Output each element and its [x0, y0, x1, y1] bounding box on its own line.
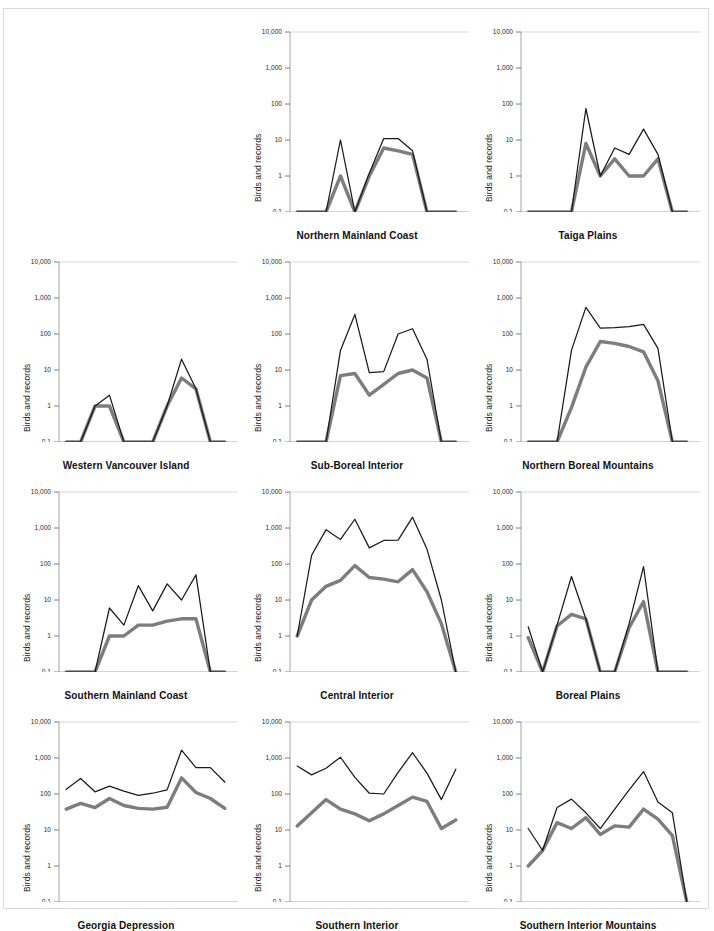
y-axis-label: Birds and records [253, 364, 263, 432]
panel-title: Southern Interior Mountains [476, 920, 700, 931]
y-tick-label: 100 [502, 100, 513, 107]
series-line-records [297, 517, 456, 672]
panel-title: Southern Interior [245, 920, 469, 931]
y-tick-label: 0.1 [273, 438, 282, 442]
y-tick-label: 100 [502, 330, 513, 337]
y-tick-label: 100 [502, 560, 513, 567]
panel-title: Northern Mainland Coast [245, 230, 469, 241]
series-line-records [528, 307, 687, 442]
series-line-birds [66, 619, 225, 672]
series-line-records [297, 139, 456, 212]
y-tick-label: 10 [506, 136, 514, 143]
y-tick-label: 10,000 [31, 718, 52, 725]
series-line-records [528, 567, 687, 672]
panel-title: Northern Boreal Mountains [476, 460, 700, 471]
y-tick-label: 10,000 [31, 258, 52, 265]
panel-title: Central Interior [245, 690, 469, 701]
chart-panel: 10,0001,0001001010.1JFMAMJJASONDBirds an… [14, 712, 238, 920]
series-line-birds [297, 566, 456, 672]
plot-area: 10,0001,0001001010.1JFMAMJJASOND [245, 22, 469, 212]
y-tick-label: 1 [278, 632, 282, 639]
plot-area: 10,0001,0001001010.1JFMAMJJASOND [245, 712, 469, 902]
y-tick-label: 10,000 [493, 718, 514, 725]
y-tick-label: 0.1 [504, 898, 513, 902]
series-line-records [66, 575, 225, 672]
y-tick-label: 100 [40, 330, 51, 337]
y-tick-label: 1 [278, 172, 282, 179]
plot-area: 10,0001,0001001010.1JFMAMJJASOND [476, 22, 700, 212]
panel-title: Sub-Boreal Interior [245, 460, 469, 471]
y-tick-label: 1,000 [496, 524, 513, 531]
y-tick-label: 10,000 [493, 258, 514, 265]
y-tick-label: 100 [271, 560, 282, 567]
y-axis-label: Birds and records [22, 364, 32, 432]
y-tick-label: 1 [509, 172, 513, 179]
plot-area: 10,0001,0001001010.1JFMAMJJASOND [476, 482, 700, 672]
series-line-records [297, 753, 456, 800]
y-tick-label: 10,000 [262, 28, 283, 35]
y-tick-label: 10,000 [262, 718, 283, 725]
y-tick-label: 1,000 [265, 524, 282, 531]
y-tick-label: 10,000 [493, 488, 514, 495]
plot-area: 10,0001,0001001010.1JFMAMJJASOND [14, 252, 238, 442]
y-tick-label: 10 [275, 596, 283, 603]
plot-area: 10,0001,0001001010.1JFMAMJJASOND [476, 252, 700, 442]
y-tick-label: 10 [44, 826, 52, 833]
y-tick-label: 10,000 [493, 28, 514, 35]
y-tick-label: 1,000 [34, 524, 51, 531]
y-tick-label: 1,000 [496, 754, 513, 761]
series-line-birds [528, 341, 687, 442]
series-line-birds [297, 148, 456, 212]
series-line-records [528, 109, 687, 213]
y-axis-label: Birds and records [484, 594, 494, 662]
y-tick-label: 0.1 [273, 668, 282, 672]
panel-title: Taiga Plains [476, 230, 700, 241]
y-tick-label: 100 [271, 790, 282, 797]
y-axis-label: Birds and records [253, 824, 263, 892]
y-tick-label: 1,000 [265, 754, 282, 761]
y-tick-label: 1,000 [265, 294, 282, 301]
y-tick-label: 10 [506, 596, 514, 603]
y-tick-label: 10,000 [262, 258, 283, 265]
y-tick-label: 1,000 [34, 294, 51, 301]
plot-area: 10,0001,0001001010.1JFMAMJJASOND [14, 712, 238, 902]
series-line-records [66, 750, 225, 795]
y-tick-label: 10 [506, 366, 514, 373]
chart-panel: 10,0001,0001001010.1JFMAMJJASONDBirds an… [245, 712, 469, 920]
series-line-birds [66, 378, 225, 442]
series-line-records [528, 772, 687, 902]
plot-area: 10,0001,0001001010.1JFMAMJJASOND [245, 482, 469, 672]
panel-title: Boreal Plains [476, 690, 700, 701]
y-tick-label: 10,000 [262, 488, 283, 495]
chart-panel: 10,0001,0001001010.1JFMAMJJASONDBirds an… [245, 482, 469, 690]
chart-panel: 10,0001,0001001010.1JFMAMJJASONDBirds an… [476, 22, 700, 230]
series-line-birds [66, 778, 225, 809]
series-line-birds [297, 797, 456, 828]
y-tick-label: 0.1 [42, 898, 51, 902]
y-tick-label: 1 [47, 402, 51, 409]
y-tick-label: 1 [47, 862, 51, 869]
y-tick-label: 1 [509, 402, 513, 409]
y-tick-label: 1 [509, 632, 513, 639]
chart-panel: 10,0001,0001001010.1JFMAMJJASONDBirds an… [14, 482, 238, 690]
y-tick-label: 0.1 [504, 208, 513, 212]
y-tick-label: 1 [509, 862, 513, 869]
y-tick-label: 0.1 [42, 438, 51, 442]
series-line-records [297, 314, 456, 442]
y-axis-label: Birds and records [484, 134, 494, 202]
y-tick-label: 1 [278, 862, 282, 869]
y-tick-label: 1,000 [496, 64, 513, 71]
chart-panel: 10,0001,0001001010.1JFMAMJJASONDBirds an… [245, 252, 469, 460]
y-axis-label: Birds and records [253, 594, 263, 662]
y-tick-label: 100 [502, 790, 513, 797]
y-tick-label: 1,000 [34, 754, 51, 761]
y-tick-label: 0.1 [42, 668, 51, 672]
panel-title: Georgia Depression [14, 920, 238, 931]
y-tick-label: 0.1 [273, 208, 282, 212]
plot-area: 10,0001,0001001010.1JFMAMJJASOND [14, 482, 238, 672]
y-axis-label: Birds and records [22, 594, 32, 662]
y-axis-label: Birds and records [22, 824, 32, 892]
series-line-birds [528, 143, 687, 212]
chart-panel: 10,0001,0001001010.1JFMAMJJASONDBirds an… [476, 482, 700, 690]
